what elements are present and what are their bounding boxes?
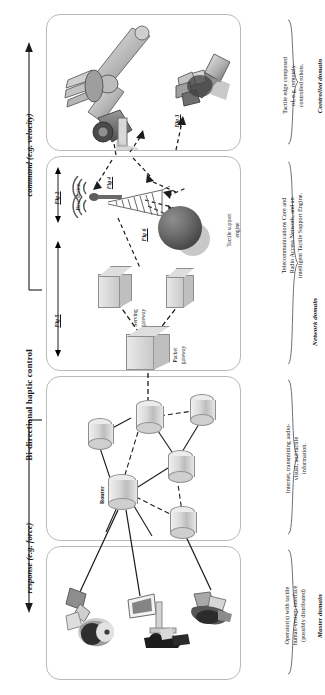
gateway-node-secondary xyxy=(166,268,194,308)
master-domain-name: Master domain xyxy=(316,551,324,681)
tactile-support-engine-label-line2: engine xyxy=(234,195,240,265)
internet-domain-description-line3: information. xyxy=(300,394,307,524)
response-label: response (e.g. force) xyxy=(24,488,34,628)
packet-gateway-label-line1: Packet xyxy=(172,332,178,378)
tactile-support-engine-node xyxy=(158,206,202,250)
router-node xyxy=(190,394,214,426)
router-node xyxy=(136,400,162,434)
router-node xyxy=(170,506,195,539)
base-station-label: Base station xyxy=(75,167,81,227)
robot-arm-image xyxy=(58,22,168,150)
router-node xyxy=(168,450,193,483)
fig5-label: Fig 5 xyxy=(54,301,60,341)
fig3-label: Fig 3 xyxy=(174,100,180,142)
robot-gripper-hand-image xyxy=(160,48,236,124)
operator-one-image xyxy=(60,586,122,652)
serving-gateway-node xyxy=(98,266,132,308)
network-domain-name: Network domain xyxy=(311,262,319,382)
fig2-label: Fig 2 xyxy=(54,178,60,218)
packet-gateway-label-line2: gateway xyxy=(180,332,186,378)
router-node xyxy=(88,418,112,450)
controlled-domain-description-line1: Tactile edge composed xyxy=(281,21,288,151)
master-domain-description-line1: Operator(s) with tactile xyxy=(283,548,290,683)
network-domain-description-line3: intelligent Tactile Support Engine. xyxy=(296,148,303,323)
router-label: Router xyxy=(99,472,105,518)
tactile-support-engine-label-line1: Tactile support xyxy=(226,195,232,265)
router-node-main xyxy=(108,474,136,510)
controlled-domain-name: Controlled domain xyxy=(316,21,324,151)
network-domain-description-line2: Radio Access Network, and an xyxy=(288,148,295,323)
internet-domain-description-line1: Internet, transmitting audio- xyxy=(284,394,291,524)
master-domain-description-line3: (possibly distributed) xyxy=(299,548,306,683)
operator-three-image xyxy=(186,590,236,636)
controlled-domain-description-line3: controlled robots. xyxy=(297,21,304,151)
controlled-domain-description-line2: of, e.g. remotely xyxy=(289,21,296,151)
internet-domain-description-line2: visual, and tactile xyxy=(292,394,299,524)
network-domain-description-line1: Telecommunications Core and xyxy=(280,148,287,323)
fig6-label: Fig 6 xyxy=(141,215,147,255)
command-label: command (e.g. velocity) xyxy=(24,85,34,225)
master-domain-description-line2: human-system interface xyxy=(291,548,298,683)
packet-gateway-node xyxy=(126,326,170,370)
